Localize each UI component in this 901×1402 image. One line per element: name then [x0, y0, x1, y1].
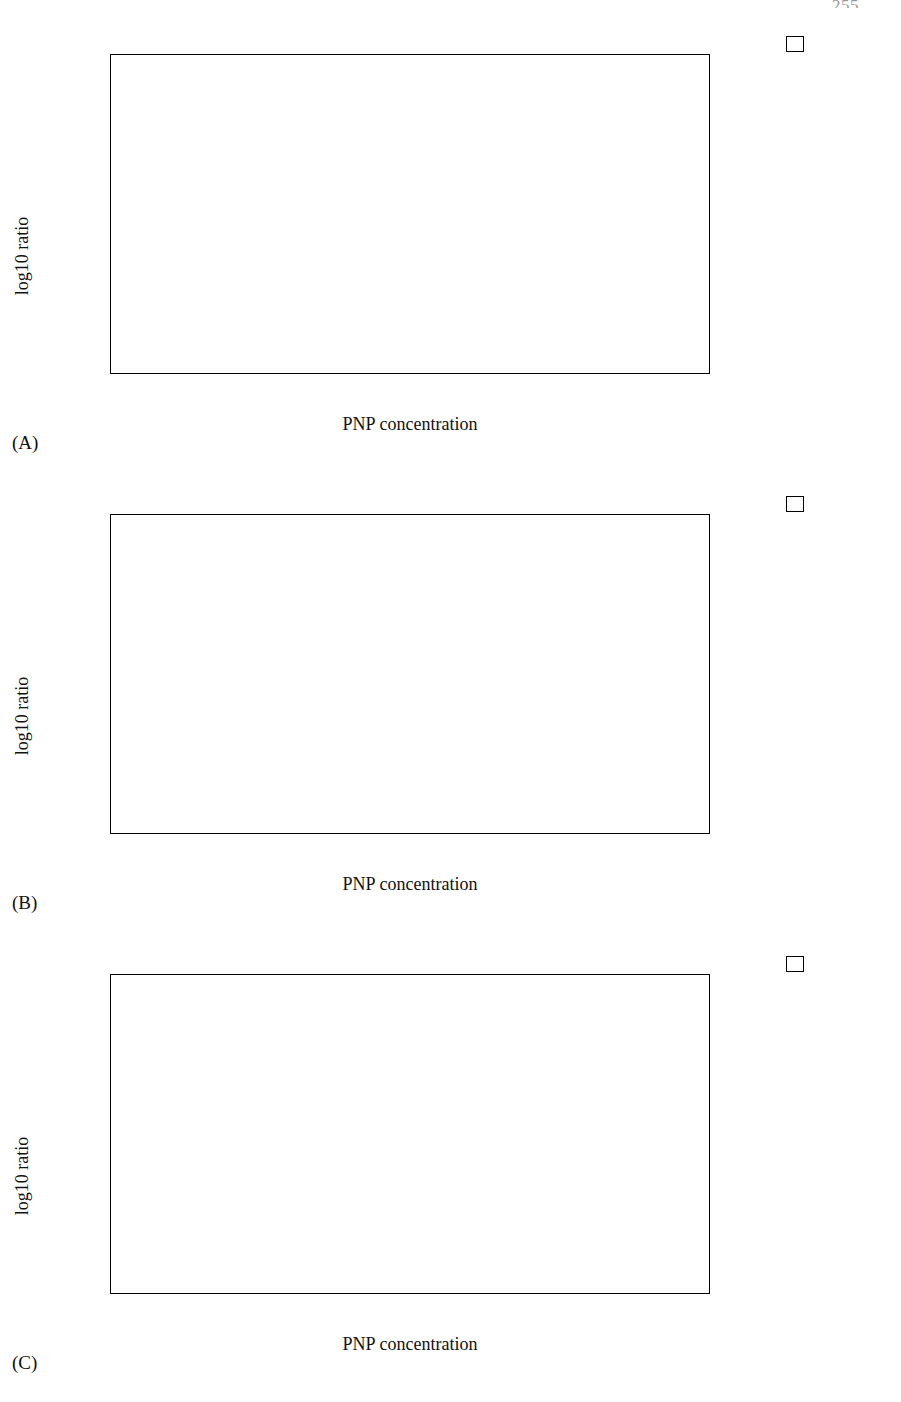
panel-label-a: (A) — [12, 432, 38, 454]
panel-label-c: (C) — [12, 1352, 37, 1374]
legend-b — [786, 496, 804, 512]
x-axis-label-a: PNP concentration — [110, 414, 710, 435]
plot-area-b — [110, 514, 710, 834]
y-axis-label-b: log10 ratio — [12, 677, 33, 756]
y-axis-label-a: log10 ratio — [12, 217, 33, 296]
bars-b — [111, 515, 709, 833]
plot-area-a — [110, 54, 710, 374]
panel-label-b: (B) — [12, 892, 37, 914]
bars-a — [111, 55, 709, 373]
chart-panel-c: log10 ratio PNP concentration (C) — [0, 956, 901, 1396]
x-axis-label-b: PNP concentration — [110, 874, 710, 895]
bars-c — [111, 975, 709, 1293]
chart-panel-b: log10 ratio PNP concentration (B) — [0, 496, 901, 936]
page-number: 255 — [832, 0, 859, 8]
x-axis-label-c: PNP concentration — [110, 1334, 710, 1355]
chart-panel-a: log10 ratio PNP concentration (A) — [0, 36, 901, 476]
legend-c — [786, 956, 804, 972]
legend-a — [786, 36, 804, 52]
y-axis-label-c: log10 ratio — [12, 1137, 33, 1216]
plot-area-c — [110, 974, 710, 1294]
